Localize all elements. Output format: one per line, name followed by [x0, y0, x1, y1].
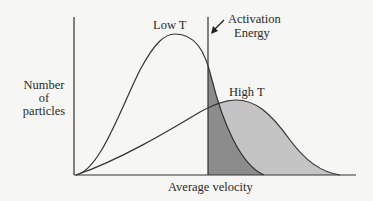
low-t-label: Low T	[153, 19, 186, 32]
arrow-icon	[211, 20, 224, 34]
x-axis-label: Average velocity	[168, 181, 253, 194]
y-axis-label-line3: particles	[20, 105, 68, 118]
y-axis-label: Number of particles	[20, 79, 68, 118]
activation-energy-label-line1: Activation	[228, 13, 281, 26]
activation-energy-label-line2: Energy	[234, 27, 270, 40]
high-t-label: High T	[229, 86, 265, 99]
